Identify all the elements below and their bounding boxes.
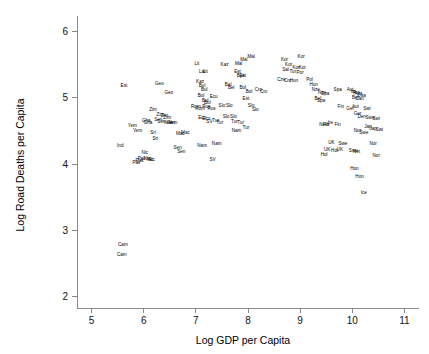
data-point-label: Kor (281, 57, 289, 62)
chart-canvas: 56789101123456 EstIndCamCamYemYemPakPakP… (0, 0, 429, 354)
data-point-label: Fin (323, 122, 330, 127)
data-point-label: Lit (194, 61, 200, 66)
y-tick-label: 2 (62, 291, 68, 302)
x-tick-label: 7 (193, 315, 199, 326)
data-point-label: Hon (355, 174, 364, 179)
x-tick-label: 6 (141, 315, 147, 326)
data-point-label: Hun (309, 82, 318, 87)
x-axis-title: Log GDP per Capita (196, 334, 291, 346)
data-point-label: Cam (117, 252, 127, 257)
x-tick-label: 10 (347, 315, 359, 326)
data-point-label: Nam (212, 141, 222, 146)
data-point-label: Mal (247, 54, 254, 59)
data-point-label: Cro (260, 89, 268, 94)
data-point-label: Bul (198, 93, 205, 98)
data-point-label: Est (243, 96, 250, 101)
data-point-label: Yem (168, 120, 177, 125)
data-point-label: Bol (246, 89, 253, 94)
data-point-label: Slo (223, 114, 230, 119)
data-point-label: Kaz (221, 62, 230, 67)
data-point-label: Mal (240, 57, 247, 62)
data-point-label: Slo (252, 107, 259, 112)
data-point-label: Hun (290, 78, 299, 83)
data-point-label: Nor (369, 141, 377, 146)
data-point-label: Bye (237, 73, 245, 78)
data-point-label: Pol (306, 77, 313, 82)
data-point-label: Bel (228, 85, 235, 90)
data-point-label: Bul (201, 87, 208, 92)
data-point-label: Ecu (210, 94, 218, 99)
data-point-label: Yem (128, 123, 137, 128)
y-tick-label: 3 (62, 225, 68, 236)
data-point-label: Can (355, 96, 364, 101)
data-point-label: Nam (232, 128, 242, 133)
data-point-label: Swe (359, 130, 368, 135)
data-point-label: Hon (350, 166, 359, 171)
y-tick-label: 6 (62, 26, 68, 37)
data-point-label: Swe (338, 141, 347, 146)
data-point-label: Swi (373, 116, 380, 121)
data-point-label: Nor (373, 153, 381, 158)
data-point-label: Lit (203, 69, 209, 74)
data-point-label: Swi (363, 106, 370, 111)
data-point-label: Spa (317, 98, 326, 103)
data-point-label: Slo (219, 103, 226, 108)
data-point-label: Zim (163, 115, 171, 120)
data-point-label: Est (121, 83, 128, 88)
data-point-label: Cam (118, 242, 128, 247)
data-point-label: Spa (334, 87, 343, 92)
x-tick-label: 5 (89, 315, 95, 326)
data-point-label: Kor (299, 65, 307, 70)
data-point-label: Aut (352, 104, 360, 109)
x-tick-label: 9 (297, 315, 303, 326)
data-point-label: Nic (148, 157, 155, 162)
data-point-label: Slo (226, 103, 233, 108)
data-point-label: Fin (338, 104, 345, 109)
data-point-label: UK (337, 147, 344, 152)
data-point-label: Gha (144, 120, 153, 125)
data-point-label: Sri (150, 130, 156, 135)
x-tick-label: 11 (399, 315, 410, 326)
data-point-label: Yem (133, 128, 142, 133)
data-point-label: UK (328, 140, 335, 145)
data-point-label: Ind (117, 143, 124, 148)
data-point-label: Hol (321, 152, 328, 157)
scatter-plot-figure: 56789101123456 EstIndCamCamYemYemPakPakP… (0, 0, 429, 354)
data-point-label: Slo (230, 114, 237, 119)
data-point-label: Nic (141, 150, 148, 155)
data-point-label: Net (353, 149, 361, 154)
data-point-label: Por (297, 70, 305, 75)
data-point-label: Sri (152, 136, 158, 141)
data-point-label: Geo (155, 81, 164, 86)
x-tick-label: 8 (245, 315, 251, 326)
data-point-label: Kor (298, 54, 306, 59)
y-tick-label: 5 (62, 92, 68, 103)
data-point-label: Swi (376, 127, 383, 132)
data-point-label: Tur (216, 120, 223, 125)
data-point-label: Sen (177, 149, 186, 154)
data-points-group: EstIndCamCamYemYemPakPakPakNicNicNicNicG… (117, 54, 383, 257)
data-point-label: Zim (149, 107, 157, 112)
y-axis-title: Log Road Deaths per Capita (14, 98, 26, 231)
data-point-label: Mac (181, 130, 190, 135)
data-point-label: Tur (243, 125, 250, 130)
data-point-label: Nam (197, 143, 207, 148)
y-tick-label: 4 (62, 159, 68, 170)
data-point-label: SV (209, 157, 216, 162)
data-point-label: Rus (207, 106, 216, 111)
data-point-label: Fin (334, 122, 341, 127)
data-point-label: Spa (321, 91, 330, 96)
axes-group (77, 16, 419, 308)
data-point-label: Geo (164, 90, 173, 95)
data-point-label: Ice (361, 190, 368, 195)
data-point-label: Sal (282, 67, 289, 72)
